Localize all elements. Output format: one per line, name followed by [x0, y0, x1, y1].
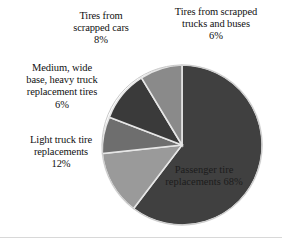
callout-medium-heavy-truck-line3: replacement tires — [27, 86, 97, 97]
callout-light-truck: Light truck tire replacements 12% — [4, 134, 118, 171]
callout-passenger-line2: replacements — [165, 176, 220, 187]
callout-medium-heavy-truck: Medium, wide base, heavy truck replaceme… — [4, 62, 120, 111]
pie-chart: Tires from scrapped cars 8% Tires from s… — [0, 0, 282, 238]
callout-passenger-value: 68% — [223, 176, 242, 187]
callout-passenger: Passenger tire replacements 68% — [152, 164, 256, 189]
callout-light-truck-value: 12% — [4, 158, 118, 170]
callout-light-truck-line1: Light truck tire — [30, 134, 92, 145]
callout-passenger-line1: Passenger tire — [175, 164, 234, 175]
callout-scrapped-cars-value: 8% — [46, 34, 156, 46]
callout-scrapped-cars-line1: Tires from — [79, 10, 122, 21]
callout-scrapped-cars: Tires from scrapped cars 8% — [46, 10, 156, 47]
callout-scrapped-trucks-buses-value: 6% — [152, 30, 280, 42]
callout-medium-heavy-truck-line2: base, heavy truck — [26, 74, 97, 85]
callout-scrapped-cars-line2: scrapped cars — [73, 22, 129, 33]
callout-medium-heavy-truck-line1: Medium, wide — [32, 62, 92, 73]
callout-light-truck-line2: replacements — [34, 146, 88, 157]
callout-medium-heavy-truck-value: 6% — [4, 99, 120, 111]
callout-scrapped-trucks-buses: Tires from scrapped trucks and buses 6% — [152, 6, 280, 43]
callout-scrapped-trucks-buses-line2: trucks and buses — [182, 18, 250, 29]
callout-scrapped-trucks-buses-line1: Tires from scrapped — [175, 6, 257, 17]
pie-slices — [102, 65, 262, 225]
